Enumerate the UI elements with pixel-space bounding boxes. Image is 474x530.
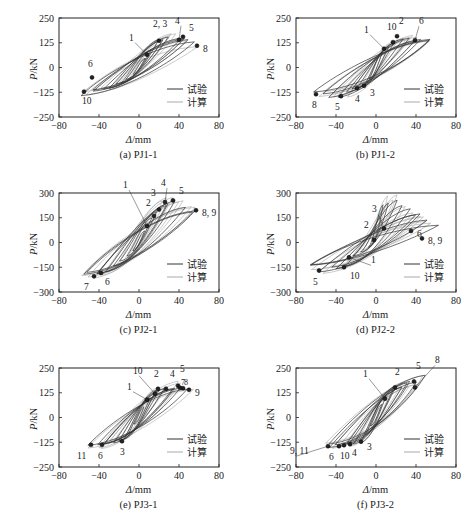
x-axis-label: Δ/mm [0, 484, 237, 495]
x-tick-label: 40 [174, 120, 184, 131]
legend-label-test: 试验 [424, 433, 444, 445]
x-tick-label: 80 [451, 295, 461, 306]
data-point-marker [395, 34, 399, 38]
data-point-marker [157, 39, 161, 43]
y-tick-label: 0 [286, 412, 291, 423]
x-tick-label: 80 [214, 295, 224, 306]
y-tick-label: 125 [276, 37, 291, 48]
data-point-label: 3 [151, 188, 156, 198]
y-axis-label: P/kN [265, 407, 276, 429]
y-tick-label: −250 [33, 112, 54, 123]
subplot-caption: (a) PJ1-1 [0, 149, 237, 160]
data-point-label: 2 [395, 367, 400, 377]
data-point-marker [412, 379, 416, 383]
x-tick-label: 40 [174, 470, 184, 481]
x-tick-label: 0 [137, 120, 142, 131]
y-axis-label: P/kN [265, 57, 276, 79]
x-tick-label: −40 [328, 470, 344, 481]
data-point-label: 4 [352, 448, 357, 458]
legend-label-test: 试验 [424, 258, 444, 270]
x-tick-label: 0 [374, 470, 379, 481]
chart-panel-f: −80−40040802501250−125−2501258341069, 11… [237, 350, 474, 525]
x-tick-label: 0 [137, 295, 142, 306]
data-point-marker [89, 443, 93, 447]
data-point-marker [326, 444, 330, 448]
y-tick-label: 0 [49, 412, 54, 423]
chart-panel-c: −80−40040803001500−150−300123458, 967试验计… [0, 175, 237, 350]
subplot-caption: (d) PJ2-2 [237, 324, 474, 335]
data-point-label: 8 [184, 378, 188, 387]
data-point-marker [342, 265, 346, 269]
data-point-label: 4 [170, 369, 175, 379]
data-point-label: 7 [84, 282, 89, 292]
legend-label-calculation: 计算 [187, 96, 207, 108]
data-point-label: 10 [350, 271, 360, 281]
data-point-marker [195, 44, 199, 48]
y-tick-label: 250 [39, 13, 54, 24]
data-point-label: 8 [435, 355, 440, 365]
subplot-caption: (e) PJ3-1 [0, 499, 237, 510]
x-tick-label: 80 [214, 470, 224, 481]
data-point-marker [164, 387, 168, 391]
x-tick-label: 40 [411, 120, 421, 131]
y-tick-label: −150 [270, 262, 291, 273]
legend-label-calculation: 计算 [424, 96, 444, 108]
y-tick-label: 0 [49, 62, 54, 73]
x-tick-label: −40 [328, 120, 344, 131]
y-axis-label: P/kN [265, 232, 276, 254]
data-point-label: 4 [161, 178, 166, 188]
chart-panel-b: −80−40040802501250−125−250110263458试验计算P… [237, 0, 474, 175]
data-point-label: 2 [146, 198, 151, 208]
y-tick-label: 250 [39, 363, 54, 374]
legend-label-calculation: 计算 [424, 446, 444, 458]
subplot-caption: (f) PJ3-2 [237, 499, 474, 510]
data-point-label: 1 [364, 25, 369, 35]
y-tick-label: 125 [39, 387, 54, 398]
x-axis-label: Δ/mm [237, 484, 474, 495]
y-tick-label: −250 [270, 112, 291, 123]
data-point-label: 3 [120, 447, 125, 457]
x-tick-label: 80 [214, 120, 224, 131]
data-point-label: 10 [82, 96, 92, 106]
data-point-marker [120, 439, 124, 443]
x-tick-label: −40 [91, 470, 107, 481]
data-point-label: 9 [195, 388, 200, 398]
y-tick-label: −300 [270, 287, 291, 298]
legend-label-calculation: 计算 [187, 271, 207, 283]
data-point-label: 3 [367, 442, 372, 452]
x-axis-label: Δ/mm [237, 309, 474, 320]
data-point-marker [187, 388, 191, 392]
data-point-marker [372, 238, 376, 242]
x-tick-label: −40 [91, 120, 107, 131]
data-point-label: 8, 9 [428, 236, 443, 246]
data-point-marker [314, 92, 318, 96]
data-point-marker [420, 236, 424, 240]
y-tick-label: 150 [39, 212, 54, 223]
y-tick-label: 125 [39, 37, 54, 48]
data-point-label: 3 [372, 204, 377, 214]
legend-label-test: 试验 [187, 258, 207, 270]
data-point-marker [99, 271, 103, 275]
y-tick-label: 0 [286, 237, 291, 248]
y-axis-label: P/kN [28, 232, 39, 254]
x-tick-label: 0 [137, 470, 142, 481]
data-point-marker [337, 444, 341, 448]
y-tick-label: 0 [49, 237, 54, 248]
y-tick-label: −250 [33, 462, 54, 473]
data-point-marker [92, 274, 96, 278]
data-point-label: 4 [175, 16, 180, 26]
data-point-label: 8 [312, 100, 317, 110]
x-tick-label: 40 [174, 295, 184, 306]
data-point-marker [194, 208, 198, 212]
data-point-label: 8, 9 [202, 208, 217, 218]
data-point-label: 10 [340, 451, 350, 461]
data-point-marker [152, 214, 156, 218]
x-axis-label: Δ/mm [237, 134, 474, 145]
data-point-label: 6 [329, 452, 334, 462]
data-point-label: 8 [203, 44, 208, 54]
data-point-label: 5 [189, 23, 194, 33]
y-tick-label: −125 [33, 437, 54, 448]
data-point-label: 2 [154, 369, 159, 379]
x-tick-label: −40 [328, 295, 344, 306]
subplot-caption: (b) PJ1-2 [237, 149, 474, 160]
